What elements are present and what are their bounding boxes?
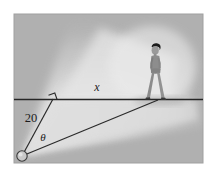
person-head <box>152 46 159 55</box>
person-back-foot <box>145 97 150 99</box>
light-source-lamp <box>17 151 27 161</box>
angle-label: θ <box>40 131 46 143</box>
height-label: 20 <box>25 111 38 125</box>
figure-root: x 20 θ <box>0 0 212 174</box>
diagram-canvas: x 20 θ <box>0 0 212 174</box>
person-ground-shadow <box>134 97 186 105</box>
distance-label: x <box>93 80 100 94</box>
